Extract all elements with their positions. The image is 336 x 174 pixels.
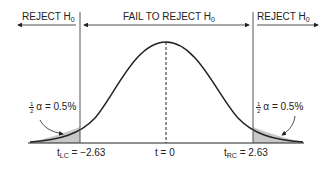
t-test-diagram: REJECT H0 FAIL TO REJECT H0 REJECT H0 12…	[0, 0, 336, 174]
right-tail-shade	[253, 127, 303, 143]
left-tail-shade	[30, 127, 80, 143]
left-tail-label: 12α = 0.5%	[29, 101, 76, 114]
left-critical-value: tLC = −2.63	[57, 147, 105, 159]
center-region-label: FAIL TO REJECT H0	[123, 11, 215, 23]
right-region-label: REJECT H0	[257, 11, 310, 23]
right-tail-pointer	[282, 116, 295, 135]
right-critical-value: tRC = 2.63	[224, 147, 268, 159]
center-value: t = 0	[155, 147, 175, 158]
right-tail-label: 12α = 0.5%	[256, 101, 303, 114]
left-tail-pointer	[40, 120, 63, 134]
left-region-label: REJECT H0	[22, 11, 75, 23]
